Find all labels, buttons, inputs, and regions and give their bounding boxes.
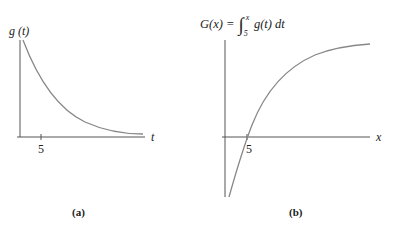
a-caption: (a) [72,206,85,218]
b-caption: (b) [289,206,302,218]
b-formula: G(x) = ∫x5 g(t) dt [200,11,285,33]
a-tick-label-5: 5 [38,142,44,157]
b-curve-G [229,44,370,197]
a-y-axis-label: g (t) [9,24,29,39]
b-x-axis-label: x [376,130,381,145]
a-curve-g [23,40,143,134]
b-upper-limit: x [246,13,250,22]
b-tick-label-5: 5 [246,142,252,157]
b-integral-limits: x5 [245,20,251,30]
a-x-axis-label: t [151,130,154,145]
figure-canvas [0,0,395,226]
b-lower-limit: 5 [244,29,248,38]
b-formula-lhs: G(x) = [200,17,238,31]
b-integrand: g(t) dt [254,17,285,31]
